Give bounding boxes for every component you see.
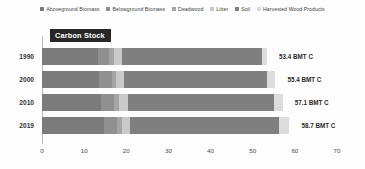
legend-label: Soil (241, 6, 250, 12)
x-axis-tick-label: 20 (123, 147, 130, 154)
bar-segment[interactable] (98, 48, 110, 65)
bar-segment[interactable] (274, 94, 282, 111)
legend-item[interactable]: Soil (235, 6, 250, 12)
legend-label: Deadwood (178, 6, 203, 12)
x-axis-tick-label: 40 (207, 147, 214, 154)
stacked-bar[interactable] (42, 71, 275, 88)
bar-segment[interactable] (42, 94, 101, 111)
stacked-bar[interactable] (42, 48, 267, 65)
x-axis-tick-label: 10 (81, 147, 88, 154)
bar-segment[interactable] (119, 94, 127, 111)
bar-segment[interactable] (279, 117, 290, 134)
bar-segment[interactable] (99, 71, 111, 88)
bar-segment[interactable] (130, 117, 278, 134)
bar-segment[interactable] (262, 48, 267, 65)
bar-row: 201057.1 BMT C (42, 94, 337, 111)
legend-swatch-icon (172, 7, 176, 11)
y-axis-category-label: 2010 (0, 94, 34, 111)
legend-label: Litter (216, 6, 228, 12)
bar-total-label: 53.4 BMT C (279, 48, 313, 65)
carbon-stock-chart: Aboveground Biomass Belowground Biomass … (0, 0, 365, 169)
legend-swatch-icon (257, 7, 261, 11)
bar-segment[interactable] (42, 117, 104, 134)
bar-segment[interactable] (128, 94, 275, 111)
bar-segment[interactable] (114, 48, 122, 65)
legend-item[interactable]: Belowground Biomass (106, 6, 165, 12)
x-axis-tick-label: 30 (165, 147, 172, 154)
bar-segment[interactable] (42, 48, 98, 65)
x-axis-tick-label: 70 (334, 147, 341, 154)
bar-total-label: 55.4 BMT C (287, 71, 321, 88)
x-axis-tick-label: 0 (40, 147, 43, 154)
bar-segment[interactable] (267, 71, 275, 88)
x-axis-tick-label: 60 (291, 147, 298, 154)
bar-segment[interactable] (104, 117, 117, 134)
bar-segment[interactable] (116, 71, 124, 88)
stacked-bar[interactable] (42, 94, 283, 111)
legend-swatch-icon (210, 7, 214, 11)
legend-label: Harvested Wood Products (263, 6, 325, 12)
bar-row: 200055.4 BMT C (42, 71, 337, 88)
x-axis: 010203040506070 (0, 147, 365, 161)
legend-item[interactable]: Deadwood (172, 6, 203, 12)
legend-swatch-icon (40, 7, 44, 11)
legend-label: Aboveground Biomass (46, 6, 99, 12)
bar-segment[interactable] (122, 117, 130, 134)
stacked-bar[interactable] (42, 117, 289, 134)
legend-swatch-icon (106, 7, 110, 11)
chart-title: Carbon Stock (50, 29, 111, 42)
plot-area: 199053.4 BMT C200055.4 BMT C201057.1 BMT… (42, 36, 337, 142)
y-axis-category-label: 2019 (0, 117, 34, 134)
legend-label: Belowground Biomass (112, 6, 165, 12)
legend-item[interactable]: Litter (210, 6, 228, 12)
y-axis-category-label: 2000 (0, 71, 34, 88)
chart-legend: Aboveground Biomass Belowground Biomass … (0, 6, 365, 12)
bar-segment[interactable] (101, 94, 114, 111)
legend-item[interactable]: Aboveground Biomass (40, 6, 99, 12)
bar-total-label: 57.1 BMT C (295, 94, 329, 111)
bar-total-label: 58.7 BMT C (301, 117, 335, 134)
x-axis-tick-label: 50 (249, 147, 256, 154)
bar-row: 201958.7 BMT C (42, 117, 337, 134)
y-axis-category-label: 1990 (0, 48, 34, 65)
bar-row: 199053.4 BMT C (42, 48, 337, 65)
legend-swatch-icon (235, 7, 239, 11)
bar-segment[interactable] (124, 71, 267, 88)
bar-segment[interactable] (42, 71, 99, 88)
bar-segment[interactable] (122, 48, 263, 65)
legend-item[interactable]: Harvested Wood Products (257, 6, 325, 12)
